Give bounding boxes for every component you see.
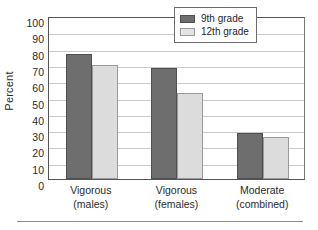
y-axis-tick-labels: 1009080706050403020100 — [18, 11, 46, 186]
bar — [66, 54, 92, 180]
x-axis-tick-label: Moderate(combined) — [219, 183, 305, 211]
y-axis-tick-label: 90 — [32, 33, 44, 45]
y-axis-tick-label: 10 — [32, 164, 44, 176]
legend-item: 12th grade — [180, 25, 249, 38]
y-axis-tick-label: 80 — [32, 50, 44, 62]
x-axis-tick-label-line: (males) — [48, 197, 134, 211]
bar-group — [49, 18, 135, 179]
y-axis-tick-label: 30 — [32, 131, 44, 143]
y-axis-title-text: Percent — [3, 71, 15, 110]
x-axis-tick-label-line: Moderate — [219, 183, 305, 197]
y-axis-tick-label: 60 — [32, 82, 44, 94]
x-axis-tick-label: Vigorous(females) — [134, 183, 220, 211]
chart-legend: 9th grade12th grade — [174, 7, 257, 43]
y-axis-title: Percent — [0, 0, 18, 182]
x-axis-tick-label-line: (females) — [134, 197, 220, 211]
x-axis-tick-label-line: (combined) — [219, 197, 305, 211]
x-axis-tick-labels: Vigorous(males)Vigorous(females)Moderate… — [48, 183, 305, 217]
bar — [151, 68, 177, 179]
y-axis-tick-label: 100 — [26, 17, 44, 29]
legend-item-label: 9th grade — [201, 12, 243, 25]
bar — [263, 137, 289, 179]
bar — [92, 65, 118, 179]
y-axis-tick-label: 50 — [32, 99, 44, 111]
legend-swatch-icon — [180, 15, 195, 23]
legend-item: 9th grade — [180, 12, 249, 25]
bar — [177, 93, 203, 179]
bar — [237, 133, 263, 179]
x-axis-tick-label: Vigorous(males) — [48, 183, 134, 211]
x-axis-tick-label-line: Vigorous — [48, 183, 134, 197]
bar-chart-figure: Percent 1009080706050403020100 9th grade… — [0, 0, 318, 230]
legend-swatch-icon — [180, 28, 195, 36]
y-axis-tick-label: 70 — [32, 66, 44, 78]
y-axis-tick-label: 0 — [38, 180, 44, 192]
y-axis-tick-label: 40 — [32, 115, 44, 127]
bottom-divider-rule — [17, 221, 303, 222]
legend-item-label: 12th grade — [201, 25, 249, 38]
x-axis-tick-label-line: Vigorous — [134, 183, 220, 197]
y-axis-tick-label: 20 — [32, 147, 44, 159]
